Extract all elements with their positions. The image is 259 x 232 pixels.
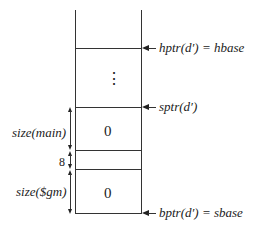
bptr-boundary (75, 213, 142, 214)
gm-cell-value: 0 (104, 185, 112, 201)
stack-right-wall (141, 10, 142, 214)
main-cell-value: 0 (104, 123, 112, 139)
gm-size-label: size($gm) (16, 185, 67, 199)
gap-dim-down-arrow-icon (68, 164, 72, 169)
gap-size-label: 8 (59, 154, 65, 170)
gm-dim-down-arrow-icon (68, 209, 72, 214)
main-dim-line (70, 111, 71, 146)
main-gap-boundary (75, 150, 142, 151)
main-size-label: size(main) (12, 126, 66, 140)
sptr-boundary (75, 107, 142, 108)
ellipsis-dots: ⋮ (106, 71, 122, 87)
gm-dim-line (70, 174, 71, 210)
sptr-label: sptr(d′) (159, 100, 197, 114)
stack-left-wall (75, 10, 76, 214)
hptr-arrow-stem (148, 48, 156, 49)
main-dim-down-arrow-icon (68, 145, 72, 150)
bptr-arrow-stem (148, 213, 156, 214)
hptr-label: hptr(d′) = hbase (159, 41, 244, 55)
bptr-label: bptr(d′) = sbase (159, 206, 243, 220)
sptr-arrow-stem (148, 107, 156, 108)
hptr-boundary (75, 48, 142, 49)
gap-gm-boundary (75, 169, 142, 170)
